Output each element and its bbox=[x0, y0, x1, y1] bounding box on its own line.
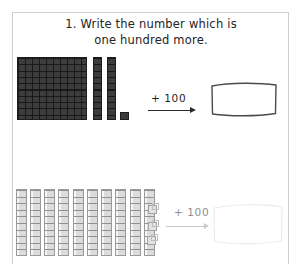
tens-rod-block bbox=[130, 189, 141, 256]
ones-cube-block bbox=[148, 205, 157, 214]
arrow-shaft-1 bbox=[148, 110, 192, 111]
prompt-line-1: 1. Write the number which is bbox=[65, 17, 237, 31]
ones-cube-block bbox=[148, 222, 157, 231]
answer-box-2[interactable] bbox=[212, 203, 284, 245]
right-arrow-icon bbox=[204, 223, 209, 229]
right-arrow-icon bbox=[190, 107, 196, 113]
tens-rod-block bbox=[30, 189, 41, 256]
tens-rod-block bbox=[87, 189, 98, 256]
tens-rod-block bbox=[73, 189, 84, 256]
tens-rod-block bbox=[101, 189, 112, 256]
tens-rod-block bbox=[93, 57, 102, 120]
hundreds-flat-block bbox=[17, 57, 87, 120]
ones-cube-block bbox=[147, 236, 156, 245]
ones-cube-block bbox=[120, 112, 129, 120]
tens-rod-block bbox=[16, 189, 27, 256]
answer-box-1-outline bbox=[210, 82, 278, 117]
page-title: 1. Write the number which is one hundred… bbox=[22, 16, 280, 48]
answer-box-2-outline bbox=[212, 203, 284, 245]
tens-rod-block bbox=[107, 57, 116, 120]
tens-rod-block bbox=[44, 189, 55, 256]
operation-label-2: + 100 bbox=[174, 206, 209, 218]
answer-box-1[interactable] bbox=[210, 82, 278, 117]
tens-rod-block bbox=[115, 189, 126, 256]
prompt-line-2: one hundred more. bbox=[22, 32, 280, 48]
tens-rod-block bbox=[58, 189, 69, 256]
arrow-shaft-2 bbox=[166, 226, 206, 227]
operation-label-1: + 100 bbox=[151, 92, 186, 104]
